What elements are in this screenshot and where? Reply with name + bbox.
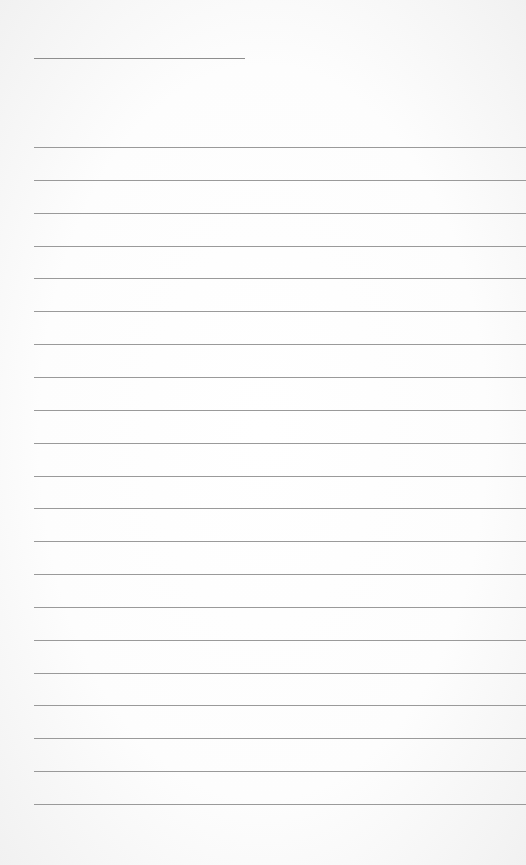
ruled-line — [34, 311, 526, 312]
ruled-line — [34, 508, 526, 509]
lined-paper-sheet — [0, 0, 526, 865]
ruled-line — [34, 705, 526, 706]
ruled-line — [34, 213, 526, 214]
ruled-line — [34, 574, 526, 575]
title-line — [34, 58, 245, 59]
ruled-line — [34, 738, 526, 739]
ruled-line — [34, 476, 526, 477]
ruled-line — [34, 410, 526, 411]
ruled-line — [34, 673, 526, 674]
ruled-line — [34, 147, 526, 148]
ruled-line — [34, 377, 526, 378]
ruled-line — [34, 541, 526, 542]
ruled-line — [34, 180, 526, 181]
ruled-line — [34, 278, 526, 279]
ruled-line — [34, 771, 526, 772]
ruled-line — [34, 804, 526, 805]
ruled-line — [34, 246, 526, 247]
ruled-line — [34, 344, 526, 345]
ruled-line — [34, 640, 526, 641]
ruled-line — [34, 607, 526, 608]
ruled-line — [34, 443, 526, 444]
